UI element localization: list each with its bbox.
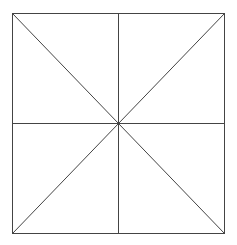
dividing-lines (13, 14, 225, 234)
square-diagram (0, 0, 237, 245)
